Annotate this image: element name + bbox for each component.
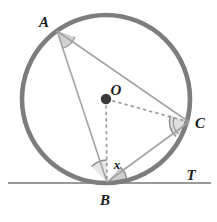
- label-C: C: [195, 115, 206, 131]
- angle-marks-group: [57, 31, 189, 182]
- geometry-figure: A B C O T x: [0, 0, 217, 222]
- label-T: T: [186, 167, 196, 183]
- circle-tangent-diagram: A B C O T x: [0, 0, 217, 222]
- label-A: A: [38, 14, 49, 30]
- radius-OB-dashed: [106, 99, 107, 182]
- angle-x-at-B-fill: [92, 160, 108, 182]
- label-O: O: [111, 82, 122, 98]
- label-B: B: [99, 192, 110, 208]
- label-angle-x: x: [113, 157, 121, 172]
- radius-OC-dashed: [106, 99, 189, 122]
- chord-AB: [57, 31, 107, 182]
